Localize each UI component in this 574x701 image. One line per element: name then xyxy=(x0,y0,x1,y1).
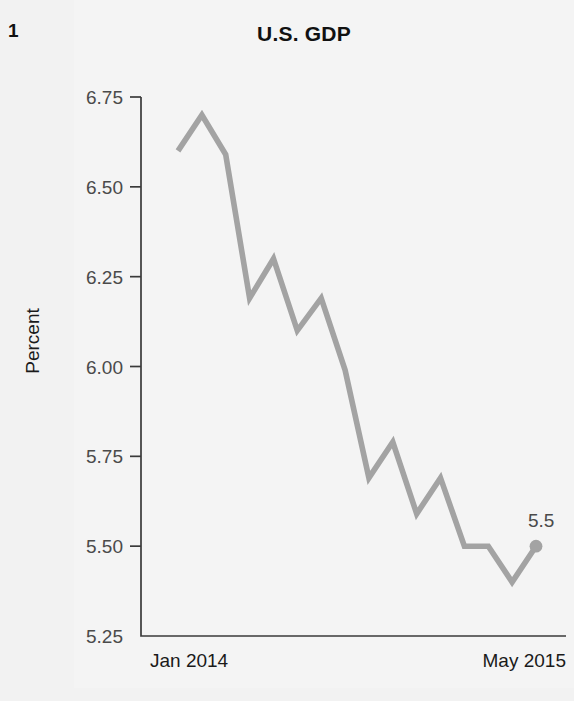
y-tick-label: 6.50 xyxy=(86,177,123,198)
x-axis-end-label: May 2015 xyxy=(483,650,566,671)
y-tick-mark-group xyxy=(130,97,141,546)
y-tick-label: 5.50 xyxy=(86,536,123,557)
x-axis-start-label: Jan 2014 xyxy=(150,650,229,671)
y-tick-label: 5.75 xyxy=(86,446,123,467)
y-tick-label: 6.25 xyxy=(86,267,123,288)
data-line-series xyxy=(178,115,536,582)
chart-plot-area: 5.255.505.756.006.256.506.75 5.5 Jan 201… xyxy=(0,0,574,701)
endpoint-value-label: 5.5 xyxy=(528,510,554,531)
axis-lines xyxy=(141,97,566,636)
y-tick-label: 6.75 xyxy=(86,87,123,108)
y-tick-label: 6.00 xyxy=(86,357,123,378)
y-tick-label-group: 5.255.505.756.006.256.506.75 xyxy=(86,87,123,647)
y-tick-label: 5.25 xyxy=(86,626,123,647)
endpoint-marker xyxy=(530,540,543,553)
